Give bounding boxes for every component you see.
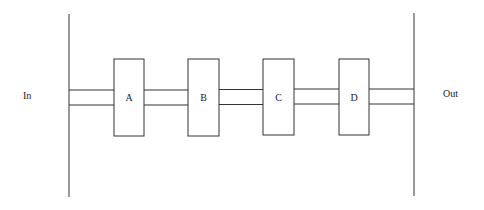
- stage-a: A: [114, 59, 144, 136]
- pipeline-diagram: A B C D In Out: [0, 0, 484, 210]
- channel-in-to-a: [69, 90, 114, 105]
- channel-a-to-b: [144, 90, 188, 105]
- stage-b: B: [188, 59, 219, 136]
- input-label: In: [23, 90, 31, 101]
- channel-d-to-out: [369, 89, 414, 104]
- channel-b-to-c: [219, 90, 263, 105]
- stage-d: D: [339, 59, 369, 135]
- channel-c-to-d: [294, 89, 339, 104]
- stage-a-label: A: [125, 92, 133, 103]
- stage-c: C: [263, 59, 294, 135]
- stage-c-label: C: [275, 92, 282, 103]
- stage-b-label: B: [200, 92, 207, 103]
- stage-d-label: D: [350, 92, 357, 103]
- output-label: Out: [443, 88, 458, 99]
